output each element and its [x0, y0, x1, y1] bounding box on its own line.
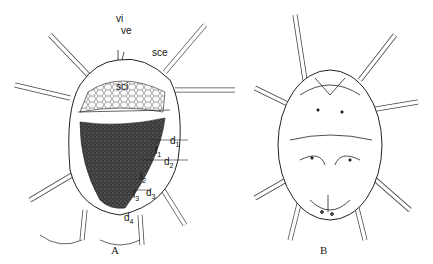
panel-b-drawing — [255, 15, 418, 240]
seta-label-vi: vi — [116, 14, 123, 24]
seta-label-l3: l3 — [133, 190, 139, 202]
seta-label-d1: d1 — [170, 136, 179, 148]
panel-label-b: B — [320, 244, 327, 256]
seta-label-sce: sce — [152, 48, 168, 58]
mite-illustration — [0, 0, 433, 264]
seta-label-d3: d3 — [146, 188, 155, 200]
seta-label-ve: ve — [121, 26, 132, 36]
seta-label-d2: d2 — [164, 157, 173, 169]
panel-label-a: A — [111, 244, 119, 256]
seta-label-l1: l1 — [155, 146, 161, 158]
seta-label-l2: l2 — [140, 172, 146, 184]
seta-label-d4: d4 — [124, 213, 133, 225]
seta-label-sci: sci — [116, 82, 128, 92]
